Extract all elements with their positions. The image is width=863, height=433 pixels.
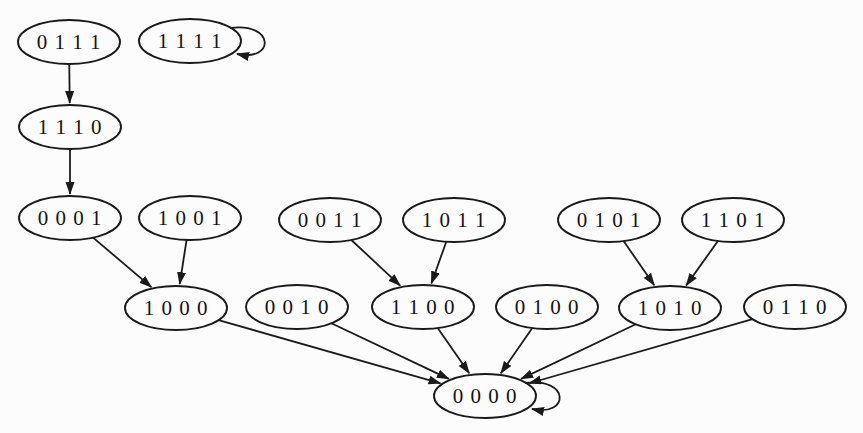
node-1011: 1 0 1 1: [403, 198, 505, 242]
edge-1010-0000: [521, 324, 636, 379]
node-label-0101: 0 1 0 1: [577, 208, 642, 232]
node-1101: 1 1 0 1: [682, 198, 784, 242]
edge-0101-1010: [624, 241, 655, 285]
node-label-1100: 1 1 0 0: [391, 295, 456, 319]
edge-0001-1000: [93, 238, 151, 287]
node-0110: 0 1 1 0: [744, 285, 846, 329]
node-label-1111: 1 1 1 1: [158, 29, 223, 53]
node-label-0100: 0 1 0 0: [515, 295, 580, 319]
node-label-0011: 0 0 1 1: [298, 208, 363, 232]
node-label-1010: 1 0 1 0: [638, 296, 703, 320]
node-1110: 1 1 1 0: [19, 105, 121, 149]
node-label-0000: 0 0 0 0: [453, 384, 518, 408]
diagram-canvas: 0 1 1 11 1 1 11 1 1 00 0 0 11 0 0 10 0 1…: [0, 0, 863, 433]
node-label-0110: 0 1 1 0: [763, 295, 828, 319]
edge-1011-1100: [431, 242, 446, 284]
edge-0100-0000: [501, 328, 533, 373]
edge-1001-1000: [180, 240, 187, 284]
node-1010: 1 0 1 0: [619, 286, 721, 330]
node-label-1001: 1 0 0 1: [158, 206, 223, 230]
node-label-1011: 1 0 1 1: [422, 208, 487, 232]
state-transition-graph: 0 1 1 11 1 1 11 1 1 00 0 0 11 0 0 10 0 1…: [0, 0, 863, 433]
node-label-0010: 0 0 1 0: [265, 295, 330, 319]
node-label-0001: 0 0 0 1: [38, 206, 103, 230]
node-layer: 0 1 1 11 1 1 11 1 1 00 0 0 11 0 0 10 0 1…: [18, 19, 846, 418]
node-1111: 1 1 1 1: [139, 19, 241, 63]
edge-1100-0000: [438, 328, 470, 373]
node-0101: 0 1 0 1: [558, 198, 660, 242]
node-0100: 0 1 0 0: [496, 285, 598, 329]
node-1000: 1 0 0 0: [125, 286, 227, 330]
node-0111: 0 1 1 1: [18, 20, 120, 64]
edge-0011-1100: [351, 240, 400, 286]
node-1100: 1 1 0 0: [372, 285, 474, 329]
node-0011: 0 0 1 1: [279, 198, 381, 242]
node-0010: 0 0 1 0: [246, 285, 348, 329]
node-label-1000: 1 0 0 0: [144, 296, 209, 320]
node-label-0111: 0 1 1 1: [37, 30, 102, 54]
node-0001: 0 0 0 1: [19, 196, 121, 240]
node-label-1110: 1 1 1 0: [38, 115, 103, 139]
node-label-1101: 1 1 0 1: [701, 208, 766, 232]
node-0000: 0 0 0 0: [434, 374, 536, 418]
edge-0010-0000: [331, 323, 448, 379]
node-1001: 1 0 0 1: [139, 196, 241, 240]
edge-1000-0000: [219, 320, 441, 383]
edge-1101-1010: [686, 241, 718, 285]
